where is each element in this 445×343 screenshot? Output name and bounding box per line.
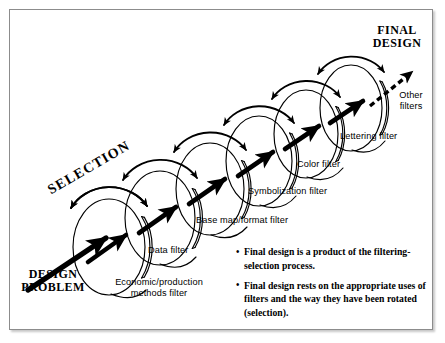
final-design-label: FINALDESIGN: [362, 24, 432, 51]
selection-label: SELECTION: [49, 171, 153, 211]
note-text: Final design is a product of the filteri…: [244, 246, 410, 271]
note-item: • Final design is a product of the filte…: [236, 245, 432, 273]
note-item: • Final design rests on the appropriate …: [236, 279, 432, 320]
bullet-icon: •: [236, 245, 239, 259]
filter-label-color: Color filter: [297, 159, 340, 169]
bullet-icon: •: [236, 278, 239, 292]
filter-label-basemap: Base map/format filter: [196, 215, 288, 225]
note-text: Final design rests on the appropriate us…: [244, 280, 426, 319]
diagram-page: SELECTION DESIGNPROBLEM FINALDESIGN Econ…: [0, 0, 445, 343]
filter-label-data: Data filter: [148, 245, 188, 255]
filter-label-symbolization: Symbolization filter: [248, 186, 327, 196]
filter-label-economic: Economic/productionmethods filter: [108, 277, 210, 299]
filter-label-lettering: Lettering filter: [340, 131, 397, 141]
filter-label-other: Otherfilters: [388, 90, 434, 112]
notes-block: • Final design is a product of the filte…: [236, 245, 432, 326]
design-problem-label: DESIGNPROBLEM: [14, 268, 92, 295]
